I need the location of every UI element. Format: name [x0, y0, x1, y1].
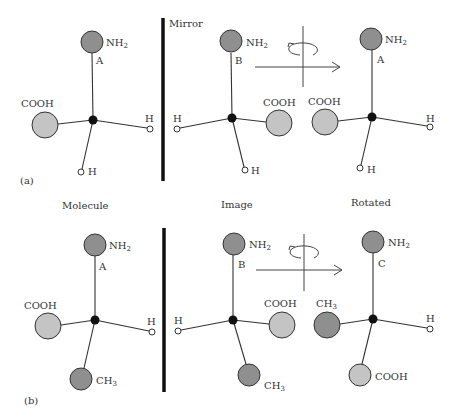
- panel-label: (b): [24, 395, 38, 406]
- carboxyl-label: COOH: [263, 97, 296, 108]
- amine-atom: [223, 233, 245, 255]
- hydrogen-label: H: [367, 164, 376, 175]
- carboxyl-label: COOH: [24, 300, 57, 311]
- amine-atom: [84, 234, 106, 256]
- carboxyl-label: COOH: [21, 98, 54, 109]
- position-tag: B: [238, 259, 245, 270]
- panel-a: NH2 A COOH H H (a) Mirror NH2 B COOH H H: [20, 18, 435, 186]
- hydrogen-atom: [174, 126, 180, 132]
- position-tag: A: [95, 55, 104, 66]
- chiral-center-atom: [229, 316, 238, 325]
- carboxyl-label: COOH: [264, 298, 297, 309]
- carboxyl-atom: [269, 312, 295, 338]
- hydrogen-atom: [427, 124, 433, 130]
- rotation-arrow: [255, 26, 340, 87]
- amine-label: NH2: [249, 239, 271, 252]
- position-tag: C: [378, 258, 386, 269]
- amine-label: NH2: [388, 237, 410, 250]
- hydrogen-atom: [147, 126, 153, 132]
- hydrogen-label: H: [426, 113, 435, 124]
- chiral-center-atom: [228, 114, 237, 123]
- methyl-atom: [238, 364, 260, 386]
- amine-label: NH2: [109, 240, 131, 253]
- hydrogen-label: H: [147, 316, 156, 327]
- position-tag: A: [376, 54, 385, 65]
- panel-b: NH2 A COOH H CH3 (b) NH2 B COOH H CH3: [24, 228, 435, 406]
- amine-atom: [360, 28, 382, 50]
- chiral-center-atom: [368, 113, 377, 122]
- amine-label: NH2: [385, 34, 407, 47]
- carboxyl-atom: [32, 112, 58, 138]
- column-label-rotated: Rotated: [351, 197, 391, 208]
- hydrogen-label: H: [174, 315, 183, 326]
- carboxyl-atom: [312, 109, 338, 135]
- amine-label: NH2: [106, 37, 128, 50]
- carboxyl-atom: [35, 313, 61, 339]
- hydrogen-label: H: [173, 113, 182, 124]
- hydrogen-label: H: [145, 113, 154, 124]
- column-label-molecule: Molecule: [62, 200, 109, 211]
- panel-label: (a): [20, 175, 34, 186]
- chiral-center-atom: [369, 315, 378, 324]
- hydrogen-atom: [175, 328, 181, 334]
- molecule-a-rotated: NH2 A COOH H H: [308, 28, 435, 175]
- methyl-label: CH3: [316, 298, 337, 311]
- hydrogen-atom: [149, 329, 155, 335]
- hydrogen-atom: [357, 165, 363, 171]
- molecule-b-rotated: NH2 C CH3 H COOH: [314, 231, 435, 386]
- molecule-a-image: NH2 B COOH H H: [173, 30, 296, 176]
- methyl-label: CH3: [264, 380, 285, 393]
- rotation-arrow: [256, 234, 342, 291]
- methyl-atom: [314, 312, 340, 338]
- position-tag: A: [98, 261, 107, 272]
- amine-atom: [220, 30, 242, 52]
- chiral-center-atom: [91, 316, 100, 325]
- chirality-diagram: NH2 A COOH H H (a) Mirror NH2 B COOH H H: [0, 0, 458, 416]
- hydrogen-label: H: [88, 166, 97, 177]
- amine-atom: [81, 31, 103, 53]
- column-label-image: Image: [221, 199, 253, 210]
- hydrogen-atom: [427, 326, 433, 332]
- mirror-label: Mirror: [169, 18, 203, 29]
- molecule-a-original: NH2 A COOH H H: [21, 31, 154, 177]
- chiral-center-atom: [89, 116, 98, 125]
- hydrogen-atom: [242, 167, 248, 173]
- methyl-atom: [70, 368, 92, 390]
- position-tag: B: [235, 55, 242, 66]
- carboxyl-atom: [349, 364, 371, 386]
- carboxyl-label: COOH: [308, 96, 341, 107]
- methyl-label: CH3: [96, 375, 117, 388]
- hydrogen-atom: [78, 169, 84, 175]
- hydrogen-label: H: [426, 313, 435, 324]
- carboxyl-label: COOH: [375, 371, 408, 382]
- carboxyl-atom: [266, 110, 292, 136]
- molecule-b-image: NH2 B COOH H CH3: [174, 233, 297, 393]
- molecule-b-original: NH2 A COOH H CH3: [24, 234, 156, 390]
- hydrogen-label: H: [251, 165, 260, 176]
- amine-atom: [362, 231, 384, 253]
- amine-label: NH2: [246, 37, 268, 50]
